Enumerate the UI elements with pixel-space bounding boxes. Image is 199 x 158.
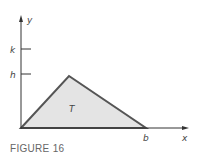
x-axis-arrow-icon <box>182 126 189 130</box>
y-axis-arrow-icon <box>19 15 23 22</box>
tick-label-b: b <box>143 133 149 143</box>
y-axis-label: y <box>26 15 33 25</box>
figure-caption: FIGURE 16 <box>10 143 65 154</box>
tick-label-h: h <box>10 70 16 80</box>
figure-canvas: y k h T b x FIGURE 16 <box>0 0 199 158</box>
tick-label-k: k <box>10 45 16 55</box>
x-axis-label: x <box>181 133 188 143</box>
triangle-region <box>21 76 146 128</box>
